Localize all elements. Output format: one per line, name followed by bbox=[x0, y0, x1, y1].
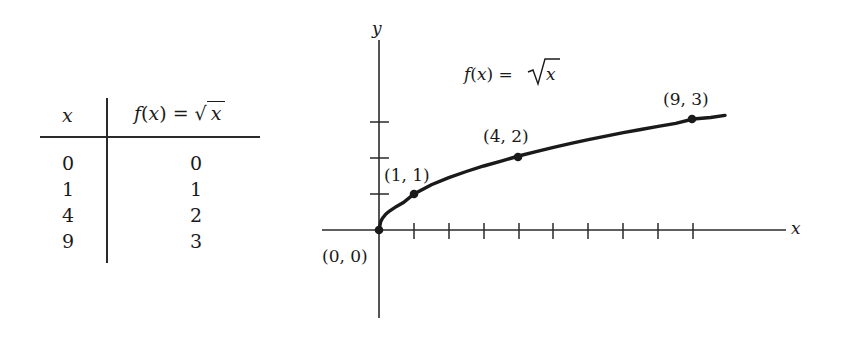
x-axis-label: x bbox=[791, 218, 801, 238]
point-4-2 bbox=[514, 153, 523, 162]
point-9-3 bbox=[688, 115, 697, 124]
function-label-radicand: x bbox=[546, 64, 556, 84]
svg-text:f(x) =: f(x) = bbox=[462, 64, 513, 84]
point-label-9-3: (9, 3) bbox=[663, 89, 709, 109]
point-1-1 bbox=[410, 190, 419, 199]
y-axis-label: y bbox=[371, 18, 382, 38]
point-label-4-2: (4, 2) bbox=[483, 126, 529, 146]
point-0-0 bbox=[375, 226, 384, 235]
sqrt-curve bbox=[379, 115, 725, 230]
point-label-0-0: (0, 0) bbox=[322, 246, 368, 266]
function-label: f(x) = x bbox=[462, 59, 560, 84]
point-label-1-1: (1, 1) bbox=[384, 165, 430, 185]
sqrt-graph: y x (0, 0) (1, 1) (4, 2) (9, 3) f(x) = x bbox=[0, 0, 848, 341]
x-axis-ticks bbox=[414, 223, 693, 239]
